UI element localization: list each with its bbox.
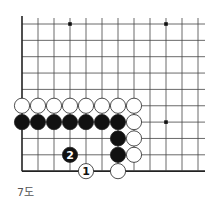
black-stone xyxy=(94,115,109,130)
white-stone xyxy=(110,164,125,179)
move-number: 1 xyxy=(82,165,90,178)
star-point xyxy=(164,120,168,124)
white-stone xyxy=(78,98,93,113)
white-stone: 1 xyxy=(78,164,93,179)
black-stone: 2 xyxy=(62,147,77,162)
black-stone xyxy=(78,115,93,130)
white-stone xyxy=(46,98,61,113)
board-grid xyxy=(22,16,205,171)
star-point xyxy=(68,22,72,26)
black-stone xyxy=(46,115,61,130)
white-stone xyxy=(110,98,125,113)
move-number: 2 xyxy=(66,149,74,162)
star-point xyxy=(164,22,168,26)
white-stone xyxy=(14,98,29,113)
white-stone xyxy=(126,131,141,146)
black-stone xyxy=(30,115,45,130)
white-stone xyxy=(30,98,45,113)
white-stone xyxy=(94,98,109,113)
black-stone xyxy=(14,115,29,130)
diagram-caption: 7도 xyxy=(17,183,34,199)
black-stone xyxy=(110,147,125,162)
white-stone xyxy=(126,147,141,162)
white-stone xyxy=(62,98,77,113)
black-stone xyxy=(62,115,77,130)
black-stone xyxy=(110,115,125,130)
white-stone xyxy=(126,115,141,130)
black-stone xyxy=(110,131,125,146)
white-stone xyxy=(126,98,141,113)
go-board: 21 xyxy=(0,0,218,207)
